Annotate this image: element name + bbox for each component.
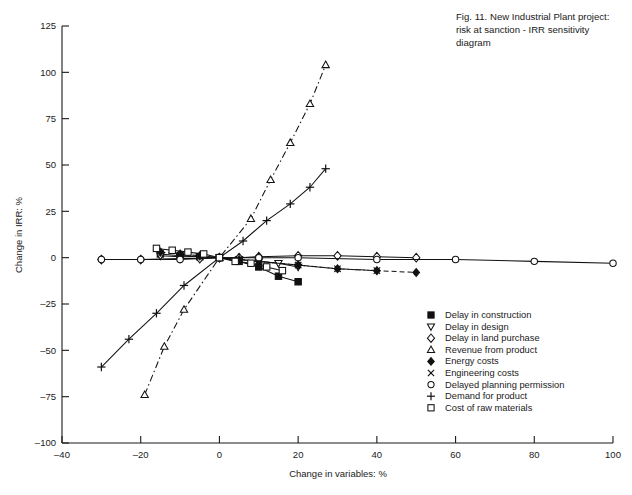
x-tick-label: 0 bbox=[217, 449, 222, 460]
marker-up-triangle bbox=[427, 346, 434, 352]
irr-sensitivity-chart: –100–75–50–250255075100125 –40–200204060… bbox=[0, 0, 632, 495]
legend-item-energy-costs[interactable]: Energy costs bbox=[428, 356, 499, 366]
marker-up-triangle bbox=[306, 100, 313, 107]
x-tick-label: 40 bbox=[372, 449, 383, 460]
marker-circle bbox=[256, 254, 262, 260]
marker-circle bbox=[177, 256, 183, 262]
marker-filled-diamond bbox=[428, 358, 435, 366]
marker-up-triangle bbox=[141, 391, 148, 398]
series-energy-costs bbox=[157, 248, 420, 276]
series-path bbox=[101, 169, 325, 367]
marker-circle bbox=[138, 256, 144, 262]
x-tick-label: 20 bbox=[293, 449, 304, 460]
marker-circle bbox=[428, 382, 434, 388]
caption-line-1: Fig. 11. New Industrial Plant project: bbox=[456, 11, 609, 22]
legend-item-revenue-from-product[interactable]: Revenue from product bbox=[427, 345, 537, 355]
x-tick-label: –20 bbox=[133, 449, 149, 460]
y-tick-label: 25 bbox=[45, 206, 56, 217]
marker-circle bbox=[610, 260, 616, 266]
y-tick-label: 100 bbox=[40, 67, 56, 78]
legend-item-delay-in-land-purchase[interactable]: Delay in land purchase bbox=[427, 333, 539, 343]
y-tick-label: 0 bbox=[51, 252, 56, 263]
legend-item-cost-of-raw-materials[interactable]: Cost of raw materials bbox=[428, 403, 533, 413]
y-tick-label: 75 bbox=[45, 113, 56, 124]
y-tick-label: –25 bbox=[40, 298, 56, 309]
y-tick-label: 50 bbox=[45, 159, 56, 170]
caption-line-2: risk at sanction - IRR sensitivity bbox=[456, 24, 589, 35]
legend-label: Revenue from product bbox=[445, 345, 537, 355]
marker-up-triangle bbox=[287, 139, 294, 146]
legend-item-demand-for-product[interactable]: Demand for product bbox=[427, 391, 528, 401]
marker-open-square bbox=[232, 258, 238, 264]
x-tick-label: 60 bbox=[450, 449, 461, 460]
series-revenue-from-product bbox=[141, 61, 329, 397]
figure-caption: Fig. 11. New Industrial Plant project: r… bbox=[456, 11, 609, 48]
marker-open-square bbox=[185, 249, 191, 255]
marker-circle bbox=[295, 254, 301, 260]
marker-open-square bbox=[200, 251, 206, 257]
figure-container: –100–75–50–250255075100125 –40–200204060… bbox=[0, 0, 632, 495]
chart-legend: Delay in constructionDelay in designDela… bbox=[427, 310, 564, 413]
x-axis-ticks: –40–20020406080100 bbox=[54, 436, 621, 460]
marker-circle bbox=[374, 256, 380, 262]
legend-label: Delay in design bbox=[445, 322, 509, 332]
marker-open-square bbox=[216, 254, 222, 260]
legend-label: Delay in construction bbox=[445, 310, 531, 320]
marker-open-square bbox=[169, 247, 175, 253]
x-tick-label: 80 bbox=[529, 449, 540, 460]
y-tick-label: 125 bbox=[40, 20, 56, 31]
marker-circle bbox=[531, 258, 537, 264]
marker-open-square bbox=[153, 245, 159, 251]
marker-circle bbox=[452, 256, 458, 262]
marker-up-triangle bbox=[161, 343, 168, 350]
legend-item-delay-in-construction[interactable]: Delay in construction bbox=[428, 310, 531, 320]
caption-line-3: diagram bbox=[456, 37, 491, 48]
marker-open-square bbox=[279, 267, 285, 273]
marker-filled-square bbox=[428, 312, 434, 318]
marker-open-square bbox=[263, 264, 269, 270]
legend-label: Energy costs bbox=[445, 356, 499, 366]
marker-up-triangle bbox=[322, 61, 329, 68]
y-tick-label: –50 bbox=[40, 345, 56, 356]
marker-diamond bbox=[413, 253, 420, 262]
legend-label: Engineering costs bbox=[445, 368, 519, 378]
legend-label: Demand for product bbox=[445, 391, 528, 401]
marker-open-square bbox=[428, 405, 434, 411]
marker-cross-x bbox=[428, 370, 434, 376]
marker-open-square bbox=[248, 260, 254, 266]
series-path bbox=[145, 65, 326, 395]
marker-filled-diamond bbox=[413, 268, 420, 276]
legend-label: Delay in land purchase bbox=[445, 333, 540, 343]
legend-item-delay-in-design[interactable]: Delay in design bbox=[427, 322, 508, 332]
marker-down-triangle bbox=[427, 324, 434, 330]
marker-up-triangle bbox=[267, 176, 274, 183]
legend-item-delayed-planning-permission[interactable]: Delayed planning permission bbox=[428, 380, 564, 390]
marker-circle bbox=[98, 256, 104, 262]
legend-label: Delayed planning permission bbox=[445, 380, 564, 390]
marker-diamond bbox=[427, 334, 434, 342]
x-axis-title: Change in variables: % bbox=[289, 468, 387, 479]
y-tick-label: –75 bbox=[40, 391, 56, 402]
data-series-layer bbox=[97, 61, 616, 397]
x-tick-label: –40 bbox=[54, 449, 70, 460]
y-axis-title: Change in IRR: % bbox=[13, 196, 24, 273]
y-axis-ticks: –100–75–50–250255075100125 bbox=[35, 20, 69, 448]
y-tick-label: –100 bbox=[35, 437, 56, 448]
legend-item-engineering-costs[interactable]: Engineering costs bbox=[428, 368, 519, 378]
marker-filled-square bbox=[295, 279, 301, 285]
marker-plus bbox=[427, 392, 435, 400]
marker-up-triangle bbox=[247, 215, 254, 222]
x-tick-label: 100 bbox=[605, 449, 621, 460]
legend-label: Cost of raw materials bbox=[445, 403, 533, 413]
